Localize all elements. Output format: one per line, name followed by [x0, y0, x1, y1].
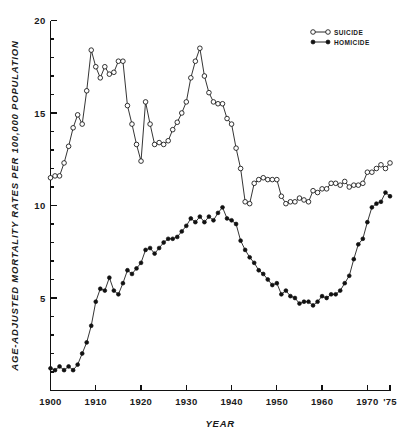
data-point — [193, 220, 197, 224]
data-point — [284, 201, 289, 206]
data-point — [117, 292, 121, 296]
data-point — [57, 174, 62, 179]
data-point — [157, 246, 161, 250]
data-point — [347, 274, 351, 278]
y-tick-label-20: 20 — [34, 15, 45, 26]
data-point — [171, 237, 175, 241]
data-point — [265, 177, 270, 182]
data-point — [207, 215, 211, 219]
data-point — [71, 368, 75, 372]
data-point — [379, 163, 384, 168]
data-point — [211, 100, 216, 105]
data-point — [270, 283, 274, 287]
data-point — [343, 281, 347, 285]
data-point — [198, 46, 203, 51]
data-point — [289, 294, 293, 298]
data-point — [116, 59, 121, 64]
data-point — [356, 242, 360, 246]
data-point — [130, 122, 135, 127]
data-point — [230, 218, 234, 222]
data-point — [252, 261, 256, 265]
data-point — [338, 183, 343, 188]
data-point — [288, 200, 293, 205]
data-point — [334, 292, 338, 296]
data-point — [152, 142, 157, 147]
data-point — [125, 103, 130, 108]
data-point — [189, 76, 194, 81]
data-point — [139, 159, 144, 164]
data-point — [85, 341, 89, 345]
data-point — [203, 220, 207, 224]
data-point — [112, 289, 116, 293]
data-point — [161, 142, 166, 147]
data-point — [98, 76, 103, 81]
data-point — [103, 289, 107, 293]
data-point — [80, 122, 85, 127]
data-point — [243, 248, 247, 252]
x-tick-label-1910: 1910 — [85, 396, 107, 407]
data-point — [166, 237, 170, 241]
data-point — [184, 100, 189, 105]
data-point — [89, 48, 94, 53]
data-point — [62, 368, 66, 372]
data-point — [279, 194, 284, 199]
data-point — [307, 300, 311, 304]
x-tick-label-1970: 1970 — [356, 396, 378, 407]
data-point — [234, 222, 238, 226]
data-point — [53, 368, 57, 372]
data-point — [193, 59, 198, 64]
data-point — [324, 187, 329, 192]
data-point — [49, 366, 53, 370]
data-point — [370, 170, 375, 175]
x-tick-label-1950: 1950 — [266, 396, 288, 407]
data-point — [329, 292, 333, 296]
data-point — [48, 175, 53, 180]
data-point — [207, 90, 212, 95]
data-point — [320, 294, 324, 298]
x-tick-label-1900: 1900 — [39, 396, 61, 407]
data-point — [347, 185, 352, 190]
data-point — [275, 177, 280, 182]
data-point — [311, 304, 315, 308]
legend-marker-right — [326, 30, 331, 35]
data-point — [58, 365, 62, 369]
data-point — [107, 276, 111, 280]
data-point — [252, 181, 257, 186]
data-point — [153, 252, 157, 256]
data-point — [279, 292, 283, 296]
data-point — [306, 200, 311, 205]
data-point — [179, 111, 184, 116]
legend-label: HOMICIDE — [334, 39, 370, 46]
data-point — [342, 179, 347, 184]
data-point — [80, 352, 84, 356]
data-point — [320, 187, 325, 192]
data-point — [266, 278, 270, 282]
data-point — [225, 116, 230, 121]
data-point — [384, 191, 388, 195]
y-tick-label-15: 15 — [34, 108, 46, 119]
data-point — [221, 205, 225, 209]
data-point — [316, 300, 320, 304]
y-tick-label-10: 10 — [34, 200, 45, 211]
data-point — [261, 175, 266, 180]
data-point — [175, 235, 179, 239]
data-point — [135, 267, 139, 271]
data-point — [71, 126, 76, 131]
data-point — [375, 202, 379, 206]
data-point — [189, 217, 193, 221]
data-point — [180, 230, 184, 234]
data-point — [239, 239, 243, 243]
data-point — [93, 64, 98, 69]
data-point — [261, 272, 265, 276]
data-point — [333, 181, 338, 186]
chart-figure: 5101520 19001910192019301940195019601970… — [0, 0, 415, 436]
data-point — [130, 272, 134, 276]
data-point — [94, 300, 98, 304]
data-point — [198, 215, 202, 219]
data-point — [157, 140, 162, 145]
data-point — [67, 365, 71, 369]
data-point — [126, 268, 130, 272]
data-point — [329, 181, 334, 186]
data-point — [53, 174, 58, 179]
data-point — [238, 166, 243, 171]
